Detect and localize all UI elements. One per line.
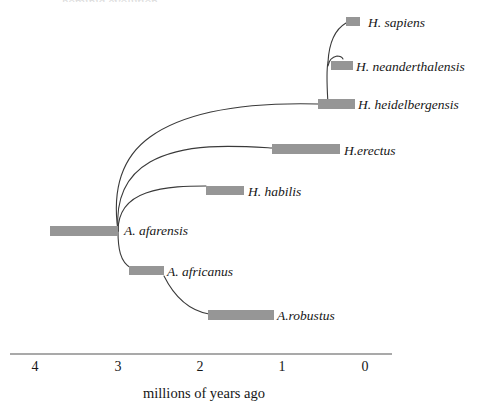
taxon-label-h-neanderthalensis: H. neanderthalensis (356, 60, 465, 74)
range-bar-a-africanus (129, 266, 164, 275)
range-bar-h-habilis (206, 186, 244, 195)
taxon-label-h-sapiens: H. sapiens (368, 16, 425, 30)
axis-tick-2: 2 (190, 360, 210, 374)
taxon-label-a-afarensis: A. afarensis (124, 224, 188, 238)
branch-to-heidelbergensis (116, 104, 318, 231)
range-bar-a-afarensis (50, 226, 118, 236)
range-bar-a-robustus (208, 310, 274, 320)
range-bar-h-neanderthalensis (331, 61, 353, 70)
taxon-label-a-africanus: A. africanus (167, 265, 233, 279)
taxon-label-h-heidelbergensis: H. heidelbergensis (358, 98, 459, 112)
phylogenetic-tree-figure: hominid evolution H. sapiens H. nean (0, 0, 490, 413)
branch-africanus-to-robustus (164, 276, 209, 314)
taxon-label-a-robustus: A.robustus (277, 309, 335, 323)
range-bar-h-erectus (272, 144, 340, 154)
branch-heidelbergensis-trunk (327, 62, 328, 104)
range-bar-h-heidelbergensis (318, 99, 355, 109)
axis-caption: millions of years ago (143, 386, 265, 401)
axis-tick-0: 0 (355, 360, 375, 374)
taxon-label-h-habilis: H. habilis (248, 185, 301, 199)
axis-tick-1: 1 (272, 360, 292, 374)
axis-tick-3: 3 (108, 360, 128, 374)
taxon-label-h-erectus: H.erectus (344, 144, 396, 158)
axis-tick-4: 4 (25, 360, 45, 374)
range-bar-h-sapiens (346, 17, 360, 26)
